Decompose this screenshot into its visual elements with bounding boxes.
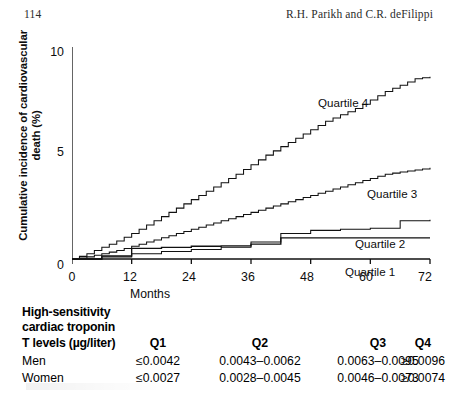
running-head-authors: R.H. Parikh and C.R. deFilippi <box>286 8 433 20</box>
x-tick-36: 36 <box>230 270 266 284</box>
survival-curves <box>72 77 430 259</box>
x-tick-24: 24 <box>171 270 207 284</box>
y-tick-5: 5 <box>38 145 64 159</box>
page-number: 114 <box>24 8 41 20</box>
y-tick-10: 10 <box>38 45 64 59</box>
curve-label-quartile-3: Quartile 3 <box>367 187 417 200</box>
table-header-line2: cardiac troponin <box>22 320 115 334</box>
page-bottom-artifact <box>26 383 176 390</box>
curve-label-quartile-4: Quartile 4 <box>318 96 368 109</box>
x-tick-48: 48 <box>289 270 325 284</box>
axis-ticks <box>72 47 430 264</box>
curve-label-quartile-2: Quartile 2 <box>355 237 405 250</box>
curve-quartile-4 <box>72 77 430 259</box>
table-cell-men-q1: ≤0.0042 <box>126 354 190 368</box>
table-column-header-q4: Q4 <box>392 336 454 350</box>
table-cell-men-q2: 0.0043–0.0062 <box>200 354 320 368</box>
y-axis-label: Cumulative incidence of cardiovascular d… <box>17 26 44 244</box>
table-header-line3: T levels (µg/liter) <box>22 336 116 350</box>
figure-kaplan-meier: Cumulative incidence of cardiovascular d… <box>0 34 455 302</box>
plot-area <box>72 47 437 265</box>
troponin-quartile-table: High-sensitivity cardiac troponin T leve… <box>0 303 455 383</box>
page: 114 R.H. Parikh and C.R. deFilippi Cumul… <box>0 0 455 395</box>
table-row-label-men: Men <box>22 354 46 368</box>
curve-label-quartile-1: Quartile 1 <box>345 265 395 278</box>
plot-svg <box>72 47 437 265</box>
table-column-header-q2: Q2 <box>200 336 320 350</box>
x-tick-12: 12 <box>112 270 148 284</box>
table-header-line1: High-sensitivity <box>22 305 110 319</box>
x-tick-72: 72 <box>407 270 443 284</box>
table-cell-women-q4: ≥0.0074 <box>392 371 454 385</box>
y-axis-label-line1: Cumulative incidence of cardiovascular <box>17 30 29 241</box>
running-head: 114 R.H. Parikh and C.R. deFilippi <box>0 8 455 24</box>
table-cell-women-q2: 0.0028–0.0045 <box>200 371 320 385</box>
table-column-header-q1: Q1 <box>126 336 190 350</box>
x-tick-0: 0 <box>54 270 90 284</box>
x-axis-label: Months <box>0 287 300 301</box>
table-cell-men-q4: ≥0.0096 <box>392 354 454 368</box>
